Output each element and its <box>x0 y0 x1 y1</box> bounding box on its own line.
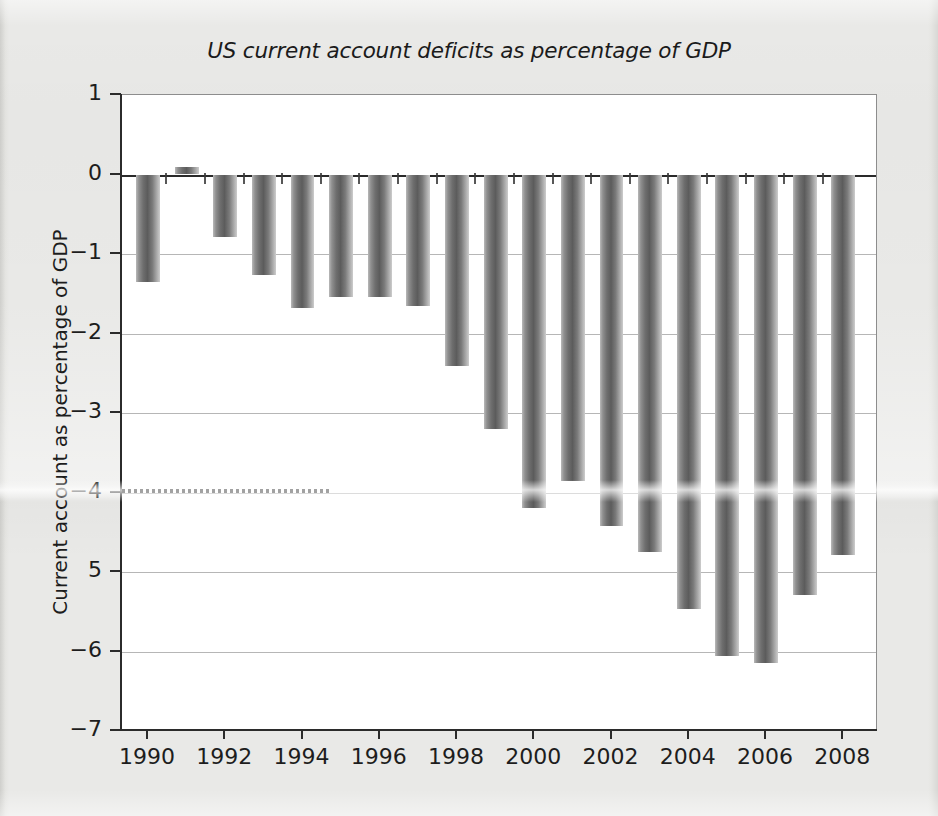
bar <box>793 175 817 596</box>
y-tick-mark <box>110 650 121 652</box>
scan-edge-right <box>928 0 938 816</box>
y-tick-mark <box>110 173 121 175</box>
y-tick-mark <box>110 332 121 334</box>
x-minor-tick <box>706 173 708 184</box>
bar <box>522 175 546 509</box>
x-minor-tick <box>397 173 399 184</box>
bar <box>677 175 701 610</box>
x-minor-tick <box>358 173 360 184</box>
bar <box>638 175 662 553</box>
y-tick-mark <box>110 93 121 95</box>
x-minor-tick <box>745 173 747 184</box>
x-tick-mark <box>223 729 225 739</box>
y-tick-mark <box>110 570 121 572</box>
chart-title: US current account deficits as percentag… <box>0 38 938 63</box>
x-tick-mark <box>532 729 534 739</box>
x-tick-mark <box>455 729 457 739</box>
bar <box>754 175 778 663</box>
x-tick-mark <box>378 729 380 739</box>
x-minor-tick <box>629 173 631 184</box>
y-tick-mark <box>110 252 121 254</box>
y-axis-title: Current account as percentage of GDP <box>48 162 72 682</box>
bar <box>484 175 508 429</box>
x-minor-tick <box>204 173 206 184</box>
bar <box>252 175 276 275</box>
chart-page: US current account deficits as percentag… <box>0 0 938 816</box>
x-minor-tick <box>822 173 824 184</box>
x-minor-tick <box>513 173 515 184</box>
bar <box>291 175 315 309</box>
bar <box>600 175 624 526</box>
bar <box>831 175 855 556</box>
x-minor-tick <box>667 173 669 184</box>
bar <box>175 167 199 175</box>
x-tick-mark <box>687 729 689 739</box>
x-minor-tick <box>474 173 476 184</box>
y-tick-mark <box>110 491 121 493</box>
plot-area <box>120 94 877 730</box>
x-minor-tick <box>281 173 283 184</box>
x-tick-label: 2008 <box>797 744 887 769</box>
bar <box>561 175 585 481</box>
y-tick-label: 1 <box>20 80 120 105</box>
x-tick-mark <box>301 729 303 739</box>
bar <box>329 175 353 297</box>
bar <box>406 175 430 307</box>
x-tick-mark <box>146 729 148 739</box>
bar <box>445 175 469 367</box>
y-tick-mark <box>110 729 121 731</box>
x-minor-tick <box>783 173 785 184</box>
x-tick-mark <box>764 729 766 739</box>
x-tick-mark <box>610 729 612 739</box>
y-tick-label: −7 <box>20 716 120 741</box>
bar <box>213 175 237 237</box>
x-minor-tick <box>320 173 322 184</box>
x-minor-tick <box>436 173 438 184</box>
bar <box>368 175 392 297</box>
x-tick-mark <box>841 729 843 739</box>
bar <box>136 175 160 282</box>
y-tick-mark <box>110 411 121 413</box>
x-minor-tick <box>243 173 245 184</box>
x-minor-tick <box>165 173 167 184</box>
x-minor-tick <box>590 173 592 184</box>
bar-series <box>121 95 876 729</box>
bar <box>715 175 739 657</box>
x-minor-tick <box>552 173 554 184</box>
